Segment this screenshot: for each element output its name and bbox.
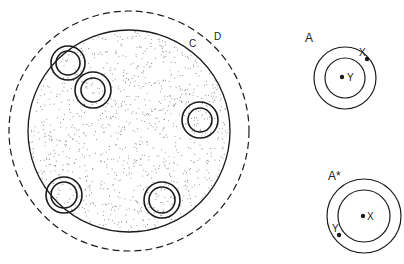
- panel-a-outer-circle: [314, 47, 376, 109]
- panel-a-label: A: [305, 31, 313, 45]
- panel-a-star-point-x: [361, 214, 365, 218]
- ring: [188, 108, 212, 132]
- panel-a-inner-circle: [325, 58, 365, 98]
- panel-a-star-label-y: Y: [332, 223, 339, 234]
- label-c: C: [189, 38, 196, 49]
- small-double-circle: [75, 72, 111, 108]
- panel-a-label-y: Y: [347, 72, 354, 83]
- small-double-circle: [182, 102, 218, 138]
- panel-a-star-label: A*: [328, 169, 341, 183]
- panel-a-star-label-x: X: [367, 211, 374, 222]
- small-double-circle: [51, 46, 85, 80]
- panel-a-label-x: X: [359, 47, 366, 58]
- panel-a: A Y X: [305, 31, 376, 109]
- small-double-circle: [144, 182, 180, 218]
- ring: [56, 51, 80, 75]
- panel-a-star: A* X Y: [327, 169, 401, 253]
- ring: [149, 187, 175, 213]
- ring: [81, 78, 105, 102]
- small-double-circle: [46, 177, 82, 213]
- label-d: D: [214, 31, 221, 42]
- diagram-canvas: C D A Y X A* X Y: [0, 0, 404, 264]
- panel-a-point-y: [340, 75, 344, 79]
- inner-solid-circle-c: [28, 30, 230, 232]
- outer-dashed-circle-d: [9, 11, 249, 251]
- small-double-circles: [46, 46, 218, 218]
